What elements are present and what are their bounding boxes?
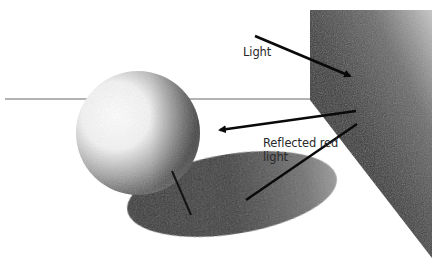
reflected-red-light-label: Reflected red light bbox=[263, 136, 338, 164]
sphere bbox=[76, 71, 200, 195]
reflected-label-line-2: light bbox=[263, 150, 338, 164]
light-label: Light bbox=[243, 45, 271, 59]
wall bbox=[310, 10, 432, 258]
reflected-label-line-1: Reflected red bbox=[263, 136, 338, 150]
light-reflection-diagram bbox=[0, 0, 438, 263]
